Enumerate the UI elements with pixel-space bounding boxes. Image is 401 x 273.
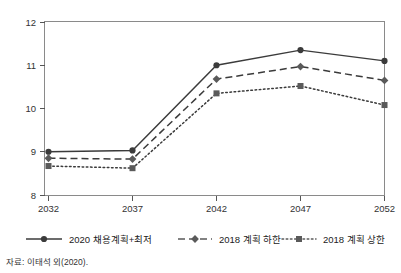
- data-point: [129, 147, 135, 153]
- data-point: [45, 149, 51, 155]
- y-tick-label-9: 9: [31, 146, 36, 157]
- x-tick-label-2037: 2037: [122, 203, 143, 214]
- legend-marker-1: [41, 236, 47, 242]
- legend-item-1[interactable]: 2020 채용계획+최저: [26, 234, 152, 245]
- x-tick-label-2032: 2032: [38, 203, 59, 214]
- data-point: [213, 75, 221, 83]
- data-point: [46, 163, 52, 169]
- y-tick-label-11: 11: [26, 60, 36, 71]
- data-point: [213, 62, 219, 68]
- legend-label-2: 2018 계획 하한: [219, 234, 281, 245]
- data-point: [381, 58, 387, 64]
- legend-item-3[interactable]: 2018 계획 상한: [282, 234, 385, 245]
- x-tick-label-2047: 2047: [290, 203, 311, 214]
- data-point: [45, 154, 53, 162]
- line-chart: 12 11 10 9 8 2032 2037 2042 2047 2052 20…: [0, 0, 401, 273]
- y-tick-label-8: 8: [31, 190, 36, 201]
- source-note: 자료: 이태석 외(2020).: [6, 255, 88, 267]
- legend-marker-2: [191, 235, 199, 243]
- data-point: [130, 165, 136, 171]
- data-point: [382, 102, 388, 108]
- plot-area-frame: [45, 22, 385, 196]
- legend-item-2[interactable]: 2018 계획 하한: [178, 234, 281, 245]
- legend-label-3: 2018 계획 상한: [323, 234, 385, 245]
- y-axis: 12 11 10 9 8: [25, 17, 44, 201]
- data-point: [129, 155, 137, 163]
- series-line-3: [49, 86, 385, 168]
- series-layer: [45, 47, 389, 171]
- data-point: [214, 90, 220, 96]
- data-point: [297, 47, 303, 53]
- data-point: [297, 63, 305, 71]
- chart-legend: 2020 채용계획+최저2018 계획 하한2018 계획 상한: [26, 234, 385, 245]
- x-axis: 2032 2037 2042 2047 2052: [38, 196, 395, 215]
- chart-figure: 12 11 10 9 8 2032 2037 2042 2047 2052 20…: [0, 0, 401, 273]
- legend-label-1: 2020 채용계획+최저: [69, 234, 152, 245]
- data-point: [298, 83, 304, 89]
- legend-marker-3: [296, 236, 302, 242]
- y-tick-label-12: 12: [25, 17, 36, 28]
- series-2: [45, 63, 389, 163]
- x-tick-label-2052: 2052: [374, 203, 395, 214]
- series-1: [45, 47, 387, 155]
- series-3: [46, 83, 388, 171]
- data-point: [381, 76, 389, 84]
- y-tick-label-10: 10: [25, 103, 36, 114]
- x-tick-label-2042: 2042: [206, 203, 227, 214]
